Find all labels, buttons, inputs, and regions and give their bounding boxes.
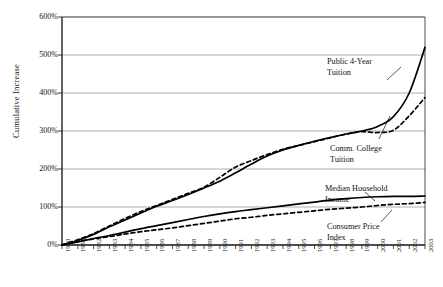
data-series-group [62, 47, 425, 245]
annotation-leader-lines [365, 67, 401, 222]
leader-line-public-4-year [387, 67, 401, 80]
leader-line-comm-college [379, 116, 390, 139]
series-line-median-household-income [62, 196, 425, 245]
series-line-comm-college-tuition [62, 98, 425, 245]
series-line-public-4-year-tuition [62, 47, 425, 245]
leader-line-cpi [381, 210, 392, 222]
plot-area [0, 0, 443, 287]
cumulative-increase-chart: Cumulative Increase 600% 500% 400% 300% … [0, 0, 443, 287]
